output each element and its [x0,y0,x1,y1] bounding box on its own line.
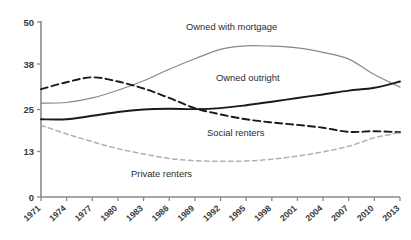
y-tick-label: 0 [29,192,34,203]
x-tick-label: 1995 [227,203,248,223]
x-tick-label: 1998 [252,203,273,223]
y-tick-label: 25 [23,104,34,115]
data-series-group [41,46,400,162]
x-tick-label: 2001 [278,203,299,223]
housing-tenure-line-chart: 013253850 197119741977198019831986198919… [0,0,411,240]
x-tick-label: 1971 [21,203,42,223]
owned-with-mortgage-label: Owned with mortgage [186,21,277,32]
x-tick-label: 1989 [175,203,196,223]
x-tick-label: 1986 [150,203,171,223]
x-tick-label: 2007 [329,203,350,223]
chart-canvas: 013253850 197119741977198019831986198919… [0,0,411,240]
x-tick-label: 1992 [201,203,222,223]
y-tick-label: 38 [23,59,34,70]
private-renters-label: Private renters [131,168,192,179]
series-line-social-renters [41,77,400,132]
x-tick-label: 2010 [355,203,376,223]
x-tick-label: 1983 [124,203,145,223]
x-axis-ticks: 1971197419771980198319861989199219951998… [21,197,401,223]
y-tick-label: 50 [23,17,34,28]
x-tick-label: 1980 [98,203,119,223]
x-tick-label: 2004 [304,203,325,223]
y-axis-ticks: 013253850 [23,17,41,203]
x-tick-label: 2013 [380,203,401,223]
social-renters-label: Social renters [207,127,265,138]
y-tick-label: 13 [23,146,34,157]
x-tick-label: 1977 [73,203,94,223]
owned-outright-label: Owned outright [216,72,280,83]
x-tick-label: 1974 [47,203,68,223]
